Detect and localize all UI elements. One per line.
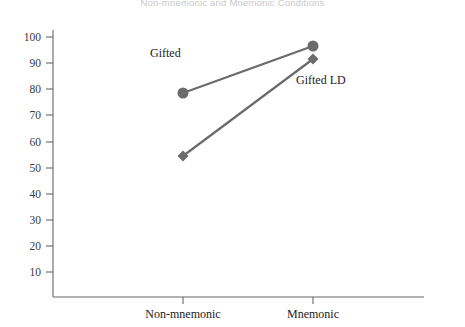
y-tick-marks [46,37,53,272]
y-tick-label-90: 90 [30,57,42,69]
y-tick-label-10: 10 [30,266,42,278]
y-tick-label-30: 30 [30,214,42,226]
x-category-label-non-mnemonic: Non-mnemonic [145,307,220,321]
series-annotation-gifted: Gifted [150,46,181,60]
series-line-gifted [183,46,313,93]
y-tick-label-70: 70 [30,109,42,121]
y-tick-label-80: 80 [30,83,42,95]
series-line-gifted-ld [183,59,313,156]
series-annotation-gifted-ld: Gifted LD [296,73,346,87]
y-tick-label-40: 40 [30,188,42,200]
y-tick-label-50: 50 [30,162,42,174]
y-tick-label-60: 60 [30,136,42,148]
y-tick-label-20: 20 [30,240,42,252]
data-point-gifted-non-mnemonic [178,88,189,99]
x-tick-marks [183,297,313,304]
chart-figure: Non-mnemonic and Mnemonic Conditions 100… [0,0,465,327]
plot-area: 100 90 80 70 60 50 40 30 20 10 Non-mnemo… [0,0,465,327]
x-category-label-mnemonic: Mnemonic [287,307,339,321]
y-tick-label-100: 100 [24,31,42,43]
data-point-gifted-mnemonic [308,41,319,52]
